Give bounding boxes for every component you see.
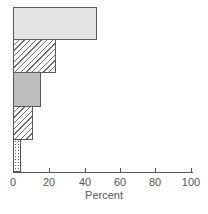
x-tick-100 bbox=[191, 168, 192, 172]
x-tick-label: 100 bbox=[182, 176, 200, 188]
bar-3 bbox=[13, 72, 41, 107]
x-tick-label: 40 bbox=[79, 176, 91, 188]
bar-1 bbox=[13, 7, 97, 40]
x-axis-label: Percent bbox=[85, 189, 123, 201]
bar-2 bbox=[13, 39, 56, 73]
x-axis-line bbox=[13, 172, 193, 173]
x-tick-label: 60 bbox=[114, 176, 126, 188]
x-tick-label: 0 bbox=[10, 176, 16, 188]
bar-5 bbox=[13, 139, 21, 172]
x-tick-label: 20 bbox=[43, 176, 55, 188]
x-tick-60 bbox=[120, 168, 121, 172]
x-tick-80 bbox=[155, 168, 156, 172]
x-tick-40 bbox=[85, 168, 86, 172]
x-tick-label: 80 bbox=[149, 176, 161, 188]
x-tick-20 bbox=[49, 168, 50, 172]
x-tick-0 bbox=[13, 168, 14, 172]
bar-4 bbox=[13, 106, 33, 140]
horizontal-bar-chart: 0 20 40 60 80 100 Percent bbox=[0, 0, 208, 214]
